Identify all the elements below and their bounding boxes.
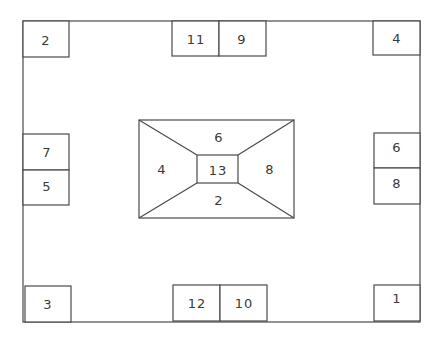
center-table: 6 4 13 8 2 [139, 120, 294, 218]
box-label: 10 [235, 296, 254, 311]
diagonal-bottom-right [238, 183, 294, 218]
box-label: 2 [41, 33, 50, 48]
perimeter-box-9: 9 [219, 21, 266, 56]
box-label: 7 [42, 145, 51, 160]
center-label-bottom: 2 [214, 193, 223, 208]
center-label-inner: 13 [209, 163, 228, 178]
perimeter-box-3: 3 [25, 286, 71, 322]
perimeter-box-8-right: 8 [374, 168, 420, 204]
diagonal-top-left [139, 120, 197, 155]
center-label-right: 8 [265, 162, 274, 177]
perimeter-box-6-right: 6 [374, 133, 420, 168]
perimeter-box-2: 2 [23, 21, 69, 57]
box-label: 5 [42, 179, 51, 194]
box-label: 1 [392, 291, 401, 306]
diagonal-top-right [238, 120, 294, 155]
perimeter-box-7: 7 [23, 134, 69, 170]
center-label-top: 6 [214, 130, 223, 145]
box-label: 8 [392, 176, 401, 191]
perimeter-box-12: 12 [173, 285, 220, 321]
perimeter-box-11: 11 [172, 21, 219, 56]
perimeter-box-4: 4 [373, 21, 420, 55]
perimeter-box-10: 10 [220, 285, 267, 321]
perimeter-box-1: 1 [374, 285, 420, 321]
box-label: 11 [187, 32, 206, 47]
box-label: 9 [237, 32, 246, 47]
center-label-left: 4 [157, 162, 166, 177]
box-label: 6 [392, 140, 401, 155]
floor-plan-diagram: 2 11 9 4 7 5 6 8 3 12 10 1 [0, 0, 445, 341]
box-label: 4 [392, 31, 401, 46]
diagonal-bottom-left [139, 183, 197, 218]
box-label: 3 [43, 297, 52, 312]
box-label: 12 [188, 296, 207, 311]
perimeter-box-5: 5 [23, 170, 69, 205]
